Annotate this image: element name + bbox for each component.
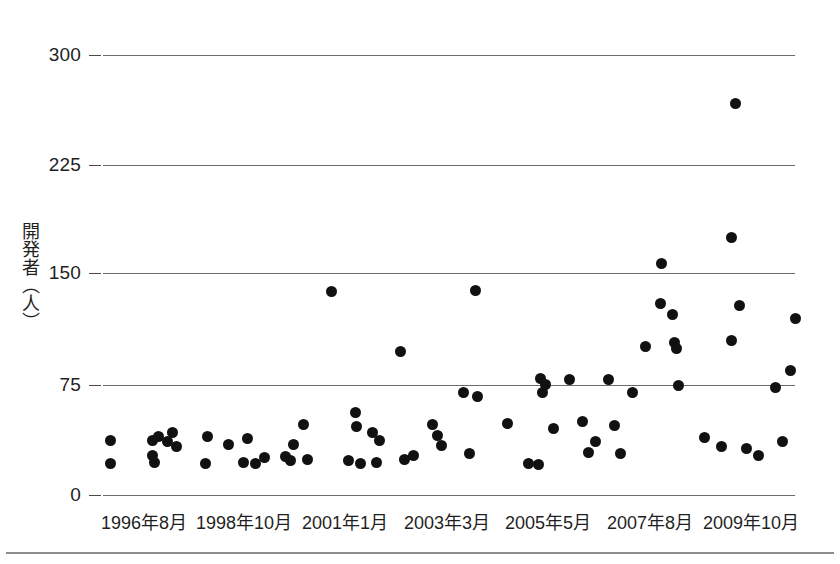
data-point xyxy=(302,454,313,465)
data-point xyxy=(374,435,385,446)
data-point xyxy=(436,440,447,451)
y-tick-mark-300 xyxy=(89,55,101,56)
data-point xyxy=(343,455,354,466)
data-point xyxy=(655,298,666,309)
data-point xyxy=(298,419,309,430)
data-point xyxy=(734,300,745,311)
x-tick-label-4: 2005年5月 xyxy=(505,512,591,534)
data-point xyxy=(726,232,737,243)
data-point xyxy=(790,313,801,324)
data-point xyxy=(288,439,299,450)
y-tick-label-225: 225 xyxy=(17,155,81,174)
data-point xyxy=(533,459,544,470)
data-point xyxy=(667,309,678,320)
gridline-75 xyxy=(103,385,795,386)
data-point xyxy=(167,427,178,438)
x-tick-label-1: 1998年10月 xyxy=(196,512,292,534)
data-point xyxy=(105,435,116,446)
y-tick-mark-150 xyxy=(89,273,101,274)
data-point xyxy=(753,450,764,461)
x-tick-label-5: 2007年8月 xyxy=(607,512,693,534)
gridline-150 xyxy=(103,273,795,274)
y-axis-title: 開発者（人） xyxy=(14,222,40,330)
data-point xyxy=(355,458,366,469)
data-point xyxy=(202,431,213,442)
y-tick-mark-0 xyxy=(89,495,101,496)
data-point xyxy=(741,443,752,454)
data-point xyxy=(540,379,551,390)
data-point xyxy=(726,335,737,346)
data-point xyxy=(105,458,116,469)
data-point xyxy=(432,430,443,441)
y-tick-label-75: 75 xyxy=(17,375,81,394)
gridline-0 xyxy=(103,495,795,496)
data-point xyxy=(656,258,667,269)
data-point xyxy=(351,421,362,432)
x-tick-label-2: 2001年1月 xyxy=(302,512,388,534)
y-tick-label-300: 300 xyxy=(17,45,81,64)
data-point xyxy=(564,374,575,385)
data-point xyxy=(464,448,475,459)
data-point xyxy=(171,441,182,452)
y-tick-mark-225 xyxy=(89,165,101,166)
data-point xyxy=(223,439,234,450)
data-point xyxy=(259,452,270,463)
data-point xyxy=(770,382,781,393)
y-tick-label-0: 0 xyxy=(17,485,81,504)
data-point xyxy=(673,380,684,391)
data-point xyxy=(350,407,361,418)
data-point xyxy=(458,387,469,398)
data-point xyxy=(615,448,626,459)
data-point xyxy=(371,457,382,468)
data-point xyxy=(548,423,559,434)
data-point xyxy=(583,447,594,458)
data-point xyxy=(502,418,513,429)
data-point xyxy=(470,285,481,296)
x-tick-label-0: 1996年8月 xyxy=(101,512,187,534)
x-tick-label-3: 2003年3月 xyxy=(404,512,490,534)
data-point xyxy=(699,432,710,443)
bottom-divider-rule xyxy=(6,552,834,554)
data-point xyxy=(408,450,419,461)
data-point xyxy=(730,98,741,109)
gridline-225 xyxy=(103,165,795,166)
data-point xyxy=(427,419,438,430)
data-point xyxy=(671,343,682,354)
data-point xyxy=(523,458,534,469)
data-point xyxy=(395,346,406,357)
y-tick-mark-75 xyxy=(89,385,101,386)
gridline-300 xyxy=(103,55,795,56)
data-point xyxy=(640,341,651,352)
data-point xyxy=(590,436,601,447)
data-point xyxy=(609,420,620,431)
scatter-chart-figure: 300225150750 開発者（人） 1996年8月1998年10月2001年… xyxy=(0,0,840,564)
data-point xyxy=(577,416,588,427)
data-point xyxy=(238,457,249,468)
data-point xyxy=(242,433,253,444)
data-point xyxy=(716,441,727,452)
data-point xyxy=(326,286,337,297)
data-point xyxy=(603,374,614,385)
data-point xyxy=(627,387,638,398)
data-point xyxy=(285,455,296,466)
data-point xyxy=(147,450,158,461)
data-point xyxy=(785,365,796,376)
x-tick-label-6: 2009年10月 xyxy=(703,512,799,534)
data-point xyxy=(200,458,211,469)
data-point xyxy=(777,436,788,447)
data-point xyxy=(472,391,483,402)
